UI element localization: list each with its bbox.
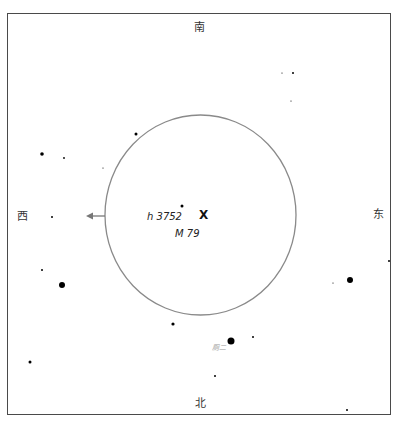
star (228, 338, 235, 345)
star (290, 100, 291, 101)
direction-east: 东 (373, 209, 384, 220)
star (332, 282, 333, 283)
target-marker-icon: X (199, 209, 208, 221)
star (292, 72, 294, 74)
star (63, 157, 65, 159)
object-label: h 3752 (147, 212, 182, 222)
star (181, 205, 184, 208)
direction-arrow-icon (86, 213, 105, 220)
star (388, 260, 390, 262)
star (41, 269, 43, 271)
stars-layer (29, 72, 391, 411)
star (171, 322, 174, 325)
star (214, 375, 216, 377)
star (29, 361, 32, 364)
star (252, 336, 254, 338)
star (346, 409, 348, 411)
object-label: 厕二 (212, 345, 226, 352)
star (281, 72, 282, 73)
direction-north: 北 (195, 398, 206, 409)
star (347, 277, 353, 283)
star (51, 216, 53, 218)
star (102, 167, 103, 168)
object-label: M 79 (175, 229, 200, 239)
star (135, 133, 138, 136)
direction-west: 西 (17, 211, 28, 222)
star (59, 282, 65, 288)
star (40, 152, 44, 156)
direction-south: 南 (194, 22, 205, 33)
